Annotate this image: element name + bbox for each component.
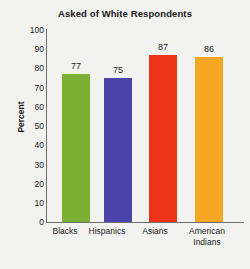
plot-area: 77 75 87 86 <box>47 30 243 222</box>
bar-group-blacks[interactable]: 77 <box>62 30 90 222</box>
y-axis-label: Percent <box>16 87 26 147</box>
bar-asians[interactable] <box>149 55 177 222</box>
bar-chart: Asked of White Respondents 100 90 80 70 … <box>0 0 250 269</box>
bar-value-blacks: 77 <box>52 62 100 71</box>
y-tick-80: 80 <box>14 64 44 73</box>
bar-hispanics[interactable] <box>104 78 132 222</box>
bar-value-asians: 87 <box>139 43 187 52</box>
category-label-american-indians-line1: American <box>176 226 238 237</box>
category-label-hispanics: Hispanics <box>80 226 134 237</box>
bar-american-indians[interactable] <box>195 57 223 222</box>
category-label-asians: Asians <box>131 226 179 237</box>
bar-group-hispanics[interactable]: 75 <box>104 30 132 222</box>
y-tick-90: 90 <box>14 45 44 54</box>
category-label-american-indians: American Indians <box>176 226 238 248</box>
bar-value-american-indians: 86 <box>185 45 233 54</box>
bar-group-asians[interactable]: 87 <box>149 30 177 222</box>
category-label-asians-line1: Asians <box>131 226 179 237</box>
y-tick-30: 30 <box>14 161 44 170</box>
y-tick-20: 20 <box>14 180 44 189</box>
y-tick-10: 10 <box>14 199 44 208</box>
bar-blacks[interactable] <box>62 74 90 222</box>
y-axis-tick-labels: 100 90 80 70 60 50 40 30 20 10 0 <box>8 0 44 269</box>
bar-value-hispanics: 75 <box>94 66 142 75</box>
bar-group-american-indians[interactable]: 86 <box>195 30 223 222</box>
y-tick-100: 100 <box>14 26 44 35</box>
category-label-hispanics-line1: Hispanics <box>80 226 134 237</box>
x-axis-line <box>46 222 244 223</box>
category-label-american-indians-line2: Indians <box>176 237 238 248</box>
